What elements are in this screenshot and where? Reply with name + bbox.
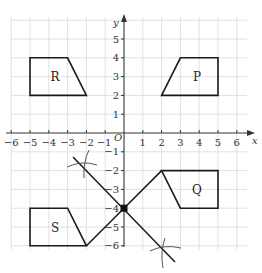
coordinate-diagram: −6 −5 −4 −3 −2 −1 1 2 3 4 5 6 x y O 5 4 … (0, 0, 262, 273)
shape-p-label: P (193, 70, 201, 84)
x-tick-label: −3 (60, 137, 75, 148)
x-tick-label: −4 (41, 137, 56, 148)
intersection-point (121, 205, 128, 212)
y-tick-label: 2 (113, 90, 119, 101)
x-tick-label: 5 (215, 137, 221, 148)
y-tick-label: −3 (104, 184, 119, 195)
y-axis-label: y (112, 17, 119, 28)
x-axis-label: x (252, 135, 258, 146)
x-tick-label: −5 (23, 137, 38, 148)
y-tick-label: 1 (113, 109, 119, 120)
shape-r-label: R (50, 70, 60, 84)
x-tick-label: 2 (158, 137, 164, 148)
x-tick-label: −6 (4, 137, 19, 148)
y-tick-label: −4 (104, 203, 119, 214)
x-tick-label: 3 (177, 137, 183, 148)
y-tick-label: −6 (104, 240, 119, 251)
y-tick-label: −5 (104, 222, 119, 233)
x-tick-label: −2 (79, 137, 94, 148)
x-tick-label: 4 (196, 137, 202, 148)
x-tick-label: 6 (234, 137, 240, 148)
shape-q-label: Q (192, 183, 202, 197)
shape-s-label: S (51, 221, 59, 235)
y-tick-label: 3 (113, 71, 119, 82)
y-tick-label: 4 (113, 52, 119, 63)
diagram-canvas: −6 −5 −4 −3 −2 −1 1 2 3 4 5 6 x y O 5 4 … (0, 0, 262, 273)
y-tick-label: 5 (113, 34, 119, 45)
origin-label: O (114, 132, 122, 143)
x-tick-label: 1 (140, 137, 146, 148)
y-tick-label: −2 (104, 165, 119, 176)
y-tick-label: −1 (104, 146, 119, 157)
construction-arc-upper (67, 150, 97, 178)
y-axis-arrow-icon (121, 14, 127, 22)
